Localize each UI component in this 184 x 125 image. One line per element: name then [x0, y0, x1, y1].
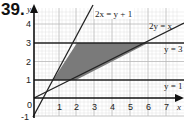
line-label-2y-equals-x: 2y = x	[149, 21, 173, 31]
y-tick-2: 2	[26, 57, 31, 67]
line-label-y-equals-3: y = 3	[164, 44, 183, 54]
y-tick-1: 1	[26, 75, 31, 85]
line-label-y-equals-1: y = 1	[164, 81, 183, 91]
x-tick-6: 6	[146, 102, 151, 112]
x-tick-7: 7	[164, 102, 169, 112]
x-tick-5: 5	[128, 102, 133, 112]
y-tick-3: 3	[26, 38, 31, 48]
axis-label-y: y	[26, 4, 31, 14]
x-tick-4: 4	[110, 102, 115, 112]
line-label-2x-equals-y-plus-1: 2x = y + 1	[95, 9, 132, 19]
x-tick-3: 3	[92, 102, 97, 112]
y-axis-arrow-icon	[30, 4, 38, 13]
x-tick-1: 1	[57, 102, 62, 112]
y-tick-4: 4	[26, 19, 31, 29]
graph: y x 0 4 3 2 1 -1 1 2 3 4 5 6 7 2x = y + …	[0, 0, 184, 125]
origin-label: 0	[27, 100, 32, 110]
x-tick-2: 2	[74, 102, 79, 112]
axis-label-x: x	[176, 102, 181, 112]
y-tick-neg1: -1	[21, 112, 29, 122]
